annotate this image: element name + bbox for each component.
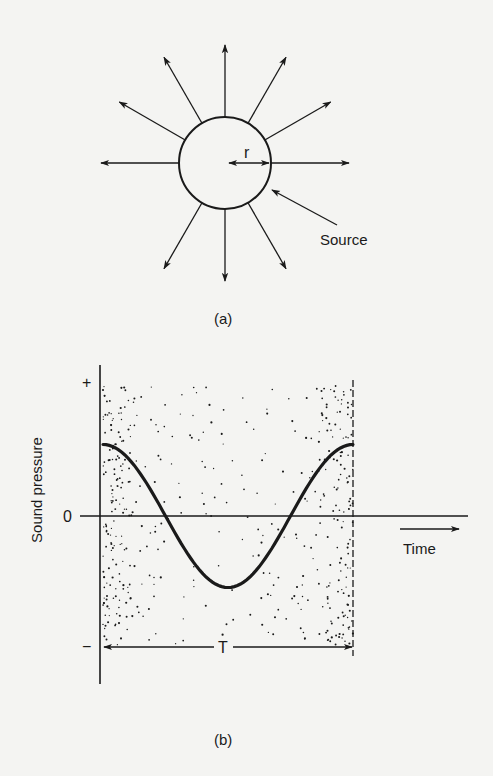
source-label: Source (320, 231, 368, 248)
ray-arrow-icon (119, 102, 185, 140)
y-tick-minus: − (82, 638, 91, 655)
figure-a: r Source (a) (101, 45, 368, 327)
caption-b: (b) (214, 731, 232, 748)
ray-arrow-icon (164, 57, 202, 123)
radius-label: r (244, 144, 250, 161)
caption-a: (a) (214, 310, 232, 327)
figure-canvas: r Source (a) + 0 − Sound pressure Time T… (0, 0, 493, 776)
period-label: T (218, 639, 228, 656)
y-axis-label: Sound pressure (28, 437, 45, 543)
source-pointer-arrow-icon (272, 190, 337, 225)
ray-arrow-icon (248, 57, 286, 123)
y-tick-plus: + (82, 374, 91, 391)
ray-arrow-icon (265, 102, 331, 140)
ray-arrow-icon (164, 203, 202, 269)
x-axis-label: Time (403, 540, 436, 557)
y-tick-zero: 0 (63, 508, 72, 525)
figure-b: + 0 − Sound pressure Time T (b) (28, 365, 468, 748)
radiating-arrows (101, 45, 349, 281)
pressure-stipple (102, 385, 354, 645)
ray-arrow-icon (248, 203, 286, 269)
